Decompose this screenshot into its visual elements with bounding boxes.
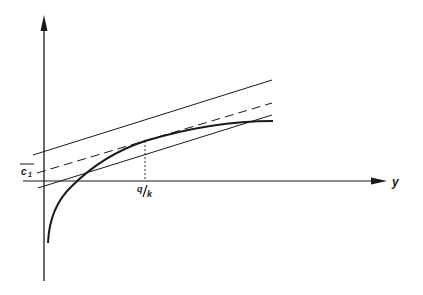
horizontal-axis-label: y bbox=[391, 175, 400, 189]
intercept-label-subscript: 1 bbox=[28, 171, 32, 178]
lower-parallel-line bbox=[38, 115, 272, 188]
tangent-x-denominator: k bbox=[147, 189, 153, 199]
diagram-canvas: y c 1 q k bbox=[0, 0, 423, 295]
vertical-axis-arrow-icon bbox=[41, 15, 48, 31]
upper-parallel-line bbox=[33, 80, 272, 155]
vertical-axis bbox=[41, 15, 48, 281]
horizontal-axis: y bbox=[23, 175, 400, 189]
tangent-x-numerator: q bbox=[137, 184, 143, 194]
intercept-label: c 1 bbox=[20, 164, 34, 178]
tangent-x-label: q k bbox=[137, 184, 153, 199]
horizontal-axis-arrow-icon bbox=[371, 178, 387, 185]
intercept-label-main: c bbox=[21, 166, 27, 177]
